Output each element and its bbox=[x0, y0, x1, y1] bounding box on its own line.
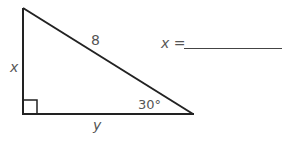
horizontal-leg-label: y bbox=[93, 118, 101, 132]
hypotenuse-label: 8 bbox=[91, 33, 100, 47]
right-angle-marker bbox=[23, 100, 37, 114]
triangle-problem: 8 x y 30° x = bbox=[0, 0, 286, 141]
angle-label: 30° bbox=[138, 98, 161, 112]
vertical-leg-label: x bbox=[10, 60, 18, 74]
answer-prompt: x = bbox=[161, 36, 185, 50]
hypotenuse bbox=[23, 8, 193, 114]
answer-blank[interactable] bbox=[184, 48, 282, 49]
right-triangle-figure bbox=[0, 0, 286, 141]
